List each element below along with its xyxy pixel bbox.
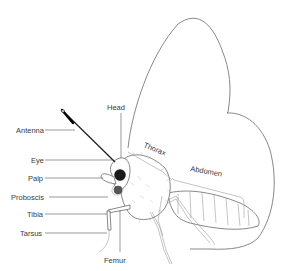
mid-leg xyxy=(150,212,170,264)
mid-leg-2 xyxy=(152,212,172,264)
antenna-shape xyxy=(64,112,115,162)
label-femur: Femur xyxy=(104,256,126,265)
proboscis-coil xyxy=(114,186,122,194)
eye-shape xyxy=(115,170,126,181)
label-tibia: Tibia xyxy=(27,210,44,219)
label-eye: Eye xyxy=(31,156,44,165)
label-antenna: Antenna xyxy=(16,126,45,135)
butterfly-anatomy-diagram: Head Antenna Eye Palp Proboscis Tibia Ta… xyxy=(0,0,287,271)
tibia-shape xyxy=(107,211,111,230)
label-proboscis: Proboscis xyxy=(11,193,44,202)
label-head: Head xyxy=(107,103,125,112)
label-tarsus: Tarsus xyxy=(20,229,42,238)
label-palp: Palp xyxy=(28,174,43,183)
femur-shape xyxy=(108,205,130,213)
